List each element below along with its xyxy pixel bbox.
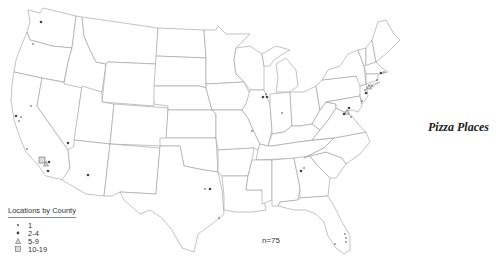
location-marker xyxy=(209,188,212,191)
state-ks xyxy=(166,110,216,138)
location-marker xyxy=(266,96,269,99)
location-marker xyxy=(39,157,45,163)
large-dot-icon xyxy=(14,229,22,237)
location-marker xyxy=(20,116,22,118)
location-marker xyxy=(18,120,20,122)
sample-size-label: n=75 xyxy=(262,236,280,245)
location-marker xyxy=(345,237,347,239)
location-marker xyxy=(348,107,351,110)
location-marker xyxy=(376,79,378,81)
location-marker xyxy=(262,96,265,99)
state-me xyxy=(372,20,400,62)
location-marker xyxy=(300,170,303,173)
location-marker xyxy=(364,89,366,91)
location-marker xyxy=(344,233,346,235)
state-ne xyxy=(154,86,212,110)
location-marker xyxy=(361,100,363,102)
square-icon xyxy=(14,245,22,253)
state-mi xyxy=(262,46,298,92)
state-nd xyxy=(156,28,206,58)
state-ct xyxy=(366,74,378,84)
location-marker xyxy=(380,72,383,75)
location-marker xyxy=(343,113,346,116)
location-marker xyxy=(40,21,43,24)
location-marker xyxy=(204,188,206,190)
legend: Locations by County 1 2-4 5-9 10-19 xyxy=(8,206,76,253)
location-marker xyxy=(350,116,352,118)
location-marker xyxy=(32,43,34,45)
state-mt xyxy=(82,17,158,64)
location-marker xyxy=(251,130,253,132)
location-marker xyxy=(383,71,385,73)
location-marker xyxy=(345,241,347,243)
location-marker xyxy=(26,148,28,150)
state-in xyxy=(270,92,292,134)
location-marker xyxy=(67,142,70,145)
state-fl xyxy=(278,196,350,254)
location-marker xyxy=(30,105,32,107)
legend-title: Locations by County xyxy=(8,206,76,218)
small-dot-icon xyxy=(14,221,22,229)
location-marker xyxy=(303,167,305,169)
state-co xyxy=(110,104,168,146)
location-marker xyxy=(265,93,267,95)
location-marker xyxy=(281,112,283,114)
legend-item-1: 1 xyxy=(8,221,76,229)
location-marker xyxy=(365,92,368,95)
triangle-icon xyxy=(14,237,22,245)
state-wy xyxy=(102,62,156,106)
location-marker xyxy=(47,170,50,173)
legend-label: 10-19 xyxy=(28,245,47,254)
location-marker xyxy=(218,217,220,219)
map-title: Pizza Places xyxy=(428,120,489,135)
state-ia xyxy=(206,82,250,110)
location-marker xyxy=(87,174,90,177)
legend-item-10-19: 10-19 xyxy=(8,245,76,253)
state-nm xyxy=(104,144,160,196)
location-marker xyxy=(48,161,51,164)
location-marker xyxy=(371,85,373,87)
location-marker xyxy=(15,115,18,118)
state-sd xyxy=(154,56,206,88)
legend-item-2-4: 2-4 xyxy=(8,229,76,237)
location-marker xyxy=(334,243,336,245)
state-ar xyxy=(218,148,254,176)
